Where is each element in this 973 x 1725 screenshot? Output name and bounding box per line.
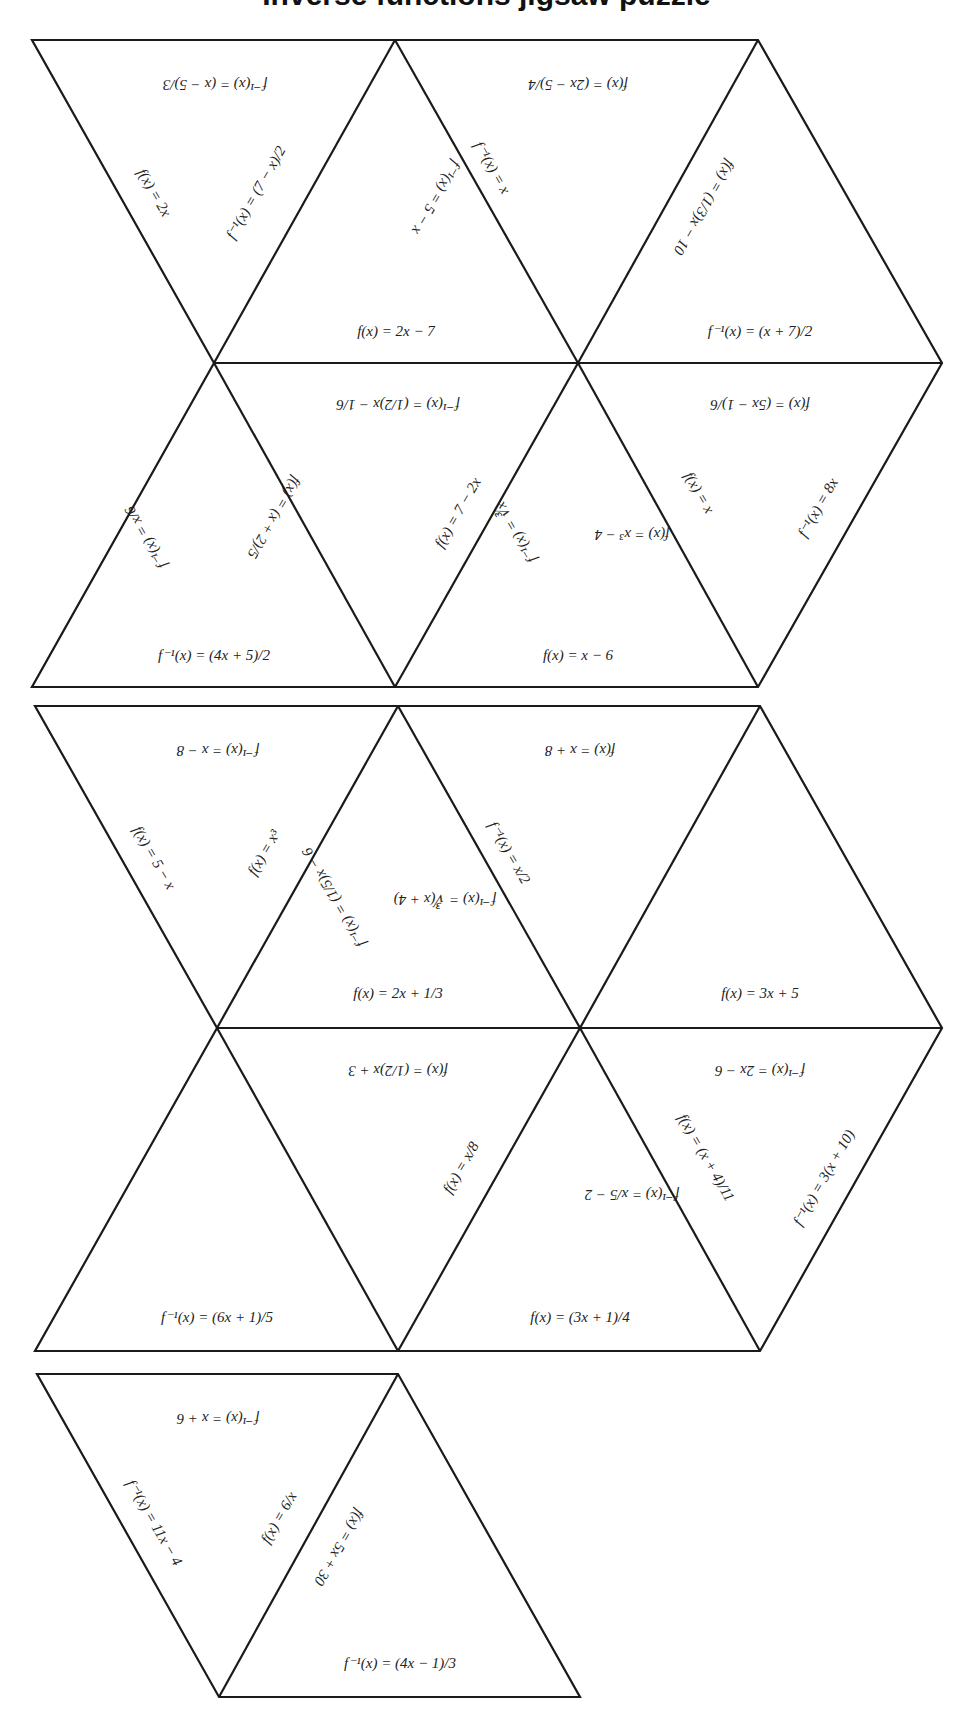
g1-t7-right-label: f(x) = x³ − 4 <box>594 526 669 543</box>
g2-t8-right-label: f⁻¹(x) = 3(x + 10) <box>790 1127 859 1229</box>
g1-t5-left-label: f⁻¹(x) = x/6 <box>121 503 171 572</box>
g3-t1-left-label: f⁻¹(x) = 11x − 4 <box>122 1477 185 1570</box>
g1-t5-bottom-label: f⁻¹(x) = (4x + 5)/2 <box>158 647 270 664</box>
g2-t2-bottom-label: f(x) = 2x + 1/3 <box>353 985 442 1002</box>
g1-t2-right-label: f⁻¹(x) = x <box>470 139 514 198</box>
g1-t3-top-label: f(x) = (2x − 5)/4 <box>528 76 628 93</box>
g1-t8-right-label: f⁻¹(x) = 8x <box>794 475 841 540</box>
g1-t1-left-label: f(x) = 2x <box>133 166 174 220</box>
g1-t1-top-label: f⁻¹(x) = (x − 5)/3 <box>163 76 267 93</box>
g1-t4-left-label: f(x) = (1/3)x − 10 <box>670 157 738 258</box>
g1-t6-right-label: f(x) = 7 − 2x <box>431 475 485 551</box>
g1-t2-left-label: f⁻¹(x) = 5 − x <box>408 157 464 237</box>
g2-t4-bottom-label: f(x) = 3x + 5 <box>721 985 799 1002</box>
puzzle-group-1: f⁻¹(x) = (x − 5)/3 f(x) = 2x f⁻¹(x) = (7… <box>32 40 942 687</box>
g2-t5-bottom-label: f⁻¹(x) = (6x + 1)/5 <box>161 1309 273 1326</box>
g1-t7-left-label: f⁻¹(x) = ∛x <box>491 498 541 566</box>
puzzle-group-2: f⁻¹(x) = x − 8 f(x) = 5 − x f(x) = x³ f⁻… <box>35 706 942 1351</box>
g2-t6-top-label: f(x) = (1/2)x + 3 <box>348 1062 447 1079</box>
g1-t6-top-label: f⁻¹(x) = (1/2)x − 1/6 <box>336 396 460 413</box>
g2-t2-left-label: f⁻¹(x) = (1/5)x − 6 <box>299 844 370 950</box>
g1-t2-bottom-label: f(x) = 2x − 7 <box>357 323 436 340</box>
g1-t7-bottom-label: f(x) = x − 6 <box>543 647 614 664</box>
g2-t1-left-label: f(x) = 5 − x <box>129 823 179 893</box>
g1-t1-right-label: f⁻¹(x) = (7 − x)/2 <box>223 143 290 242</box>
g2-t6-right-label: f(x) = x/8 <box>440 1138 483 1196</box>
g2-t7-bottom-label: f(x) = (3x + 1)/4 <box>530 1309 630 1326</box>
g1-t4-bottom-label: f⁻¹(x) = (x + 7)/2 <box>708 323 813 340</box>
g3-t1-right-label: f(x) = 6/x <box>258 1489 301 1547</box>
g2-t8-top-label: f⁻¹(x) = 2x − 6 <box>714 1062 805 1079</box>
g1-t8-top-label: f(x) = (5x − 1)/6 <box>710 396 810 413</box>
g3-t1-top-label: f⁻¹(x) = x + 6 <box>176 1410 259 1427</box>
g2-t1-right-label: f(x) = x³ <box>244 827 284 879</box>
g2-t7-right-label: f⁻¹(x) = x/5 − 2 <box>584 1186 679 1203</box>
g3-t2-bottom-label: f⁻¹(x) = (4x − 1)/3 <box>344 1655 456 1672</box>
g1-t5-right-label: f(x) = (x + 2)/5 <box>243 473 304 561</box>
puzzle-group-3: f⁻¹(x) = x + 6 f⁻¹(x) = 11x − 4 f(x) = 6… <box>37 1374 580 1697</box>
g2-t3-left-label: f⁻¹(x) = x/2 <box>484 819 534 888</box>
g2-t8-left-label: f(x) = (x + 4)/11 <box>674 1111 738 1205</box>
g2-t3-top-label: f(x) = x + 8 <box>544 742 615 759</box>
g1-t8-left-label: f(x) = x <box>680 469 717 517</box>
g2-t1-top-label: f⁻¹(x) = x − 8 <box>176 742 259 759</box>
tarsia-puzzle: f⁻¹(x) = (x − 5)/3 f(x) = 2x f⁻¹(x) = (7… <box>0 0 973 1725</box>
g2-t2-right-label: f⁻¹(x) = ∛(x + 4) <box>394 891 497 909</box>
